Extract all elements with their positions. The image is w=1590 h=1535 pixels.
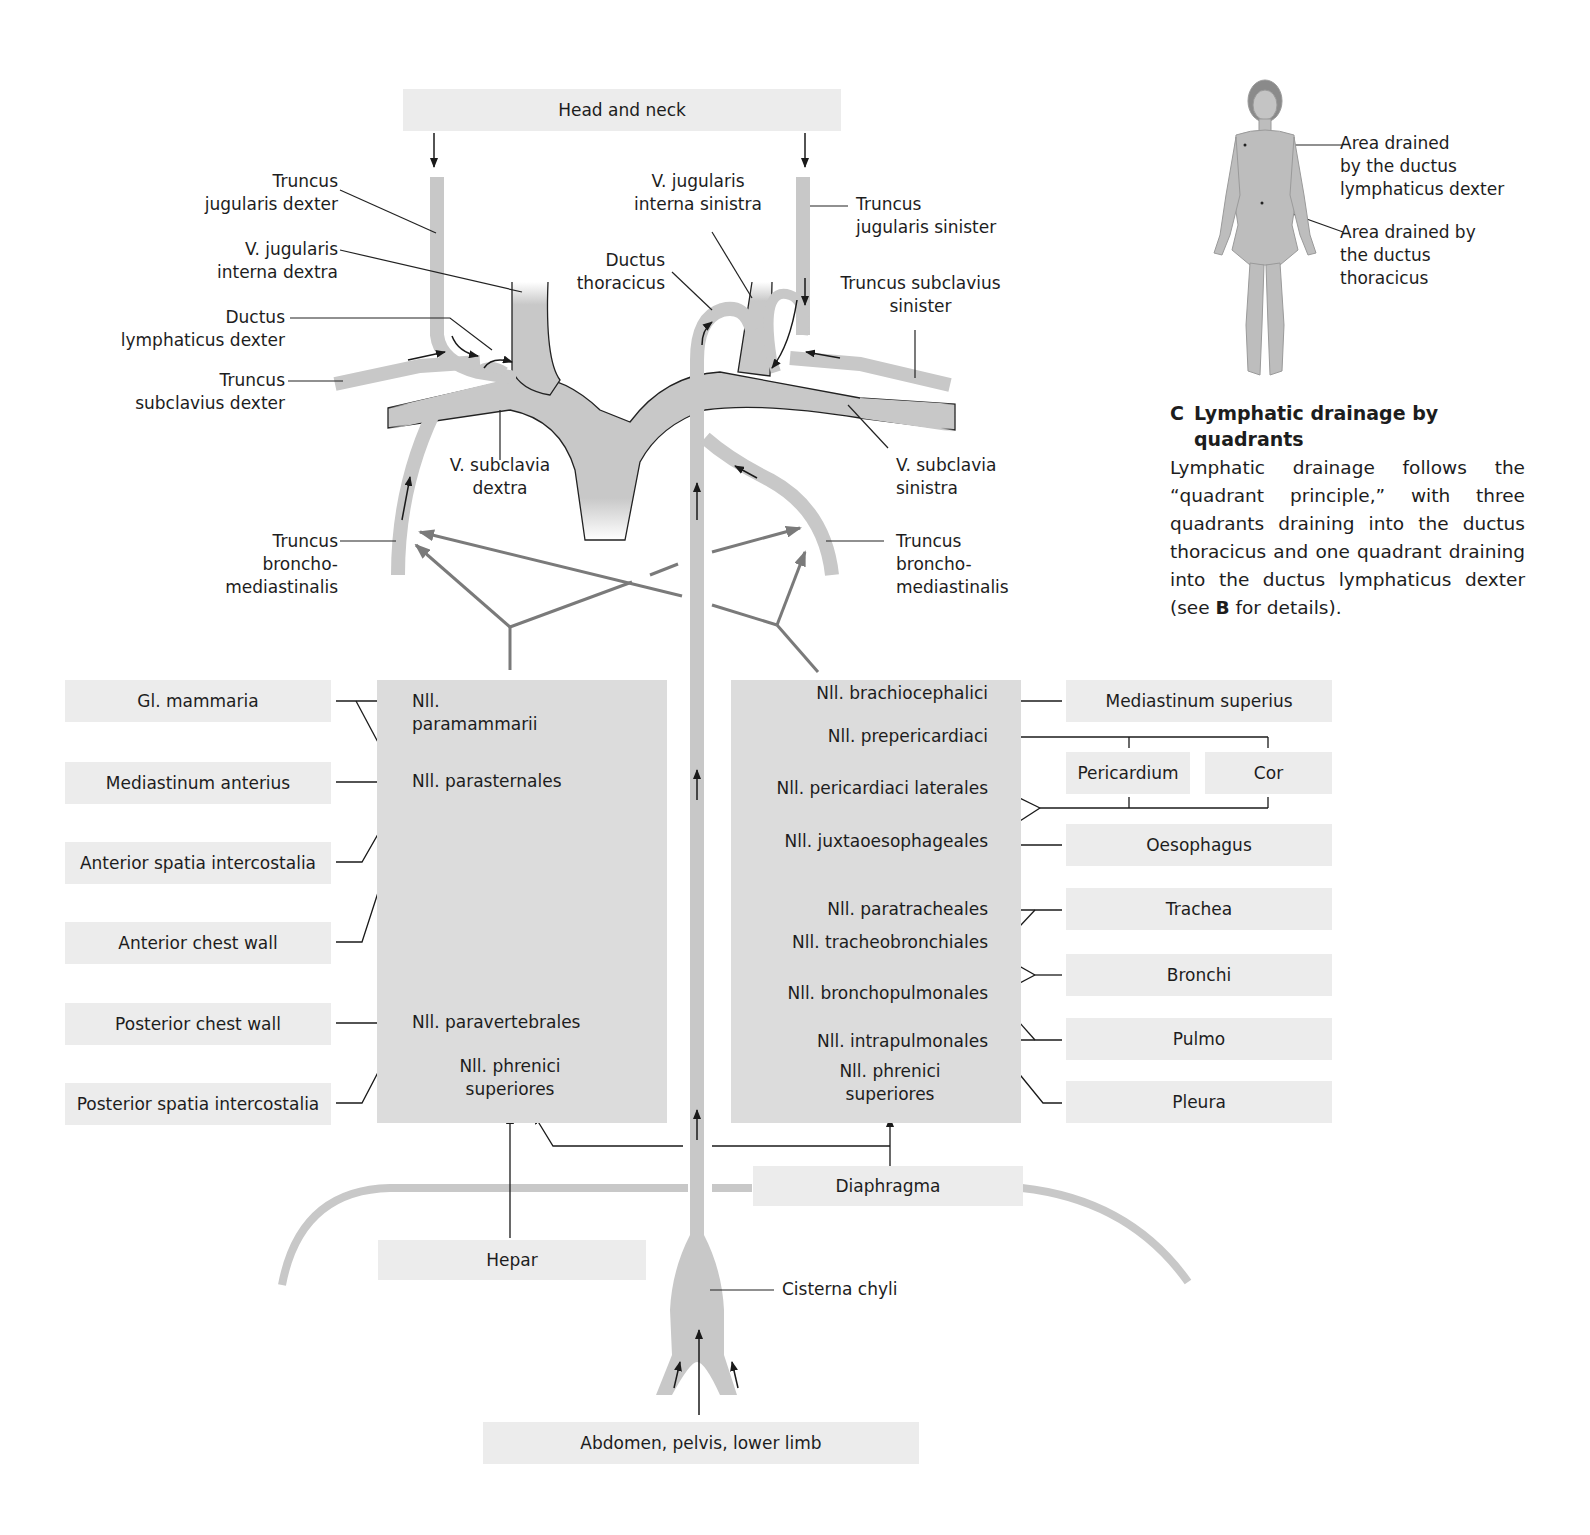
label-line: mediastinalis [896,576,1009,599]
source-mediastinum-anterius: Mediastinum anterius [65,762,331,804]
label-truncus-subclavius-sinister: Truncus subclavius sinister [838,272,1003,318]
label-line: Truncus [225,530,338,553]
node-phrenici-superiores-right: Nll. phrenici superiores [820,1060,960,1106]
label-v-subclavia-dextra: V. subclavia dextra [440,454,560,500]
label-line: mediastinalis [225,576,338,599]
label-line: broncho- [225,553,338,576]
label-line: jugularis dexter [205,193,338,216]
label-line: V. subclavia [896,454,996,477]
source-diaphragma: Diaphragma [753,1166,1023,1206]
cisterna-chyli-shape [656,1235,737,1395]
node-prepericardiaci: Nll. prepericardiaci [828,725,988,748]
label-line: interna sinistra [628,193,768,216]
label-line: interna dextra [217,261,338,284]
label-line: Area drained [1340,132,1504,155]
label-line: Truncus [205,170,338,193]
label-line: subclavius dexter [135,392,285,415]
label-line: Truncus [135,369,285,392]
node-juxtaoesophageales: Nll. juxtaoesophageales [785,830,988,853]
label-line: Truncus [856,193,996,216]
label-line: V. jugularis [628,170,768,193]
source-cor: Cor [1205,752,1332,794]
node-bronchopulmonales: Nll. bronchopulmonales [787,982,988,1005]
node-label-line: Nll. [412,690,538,713]
label-line: lymphaticus dexter [121,329,285,352]
node-paramammarii: Nll. paramammarii [412,690,538,736]
node-tracheobronchiales: Nll. tracheobronchiales [792,931,988,954]
label-truncus-jugularis-dexter: Truncus jugularis dexter [205,170,338,216]
source-label: Pleura [1172,1092,1226,1112]
source-anterior-spatia-intercostalia: Anterior spatia intercostalia [65,842,331,884]
node-label-line: Nll. phrenici [820,1060,960,1083]
source-head-neck: Head and neck [403,89,841,131]
node-intrapulmonales: Nll. intrapulmonales [817,1030,988,1053]
source-pleura: Pleura [1066,1081,1332,1123]
label-truncus-jugularis-sinister: Truncus jugularis sinister [856,193,996,239]
label-cisterna-chyli: Cisterna chyli [782,1278,898,1301]
label-ductus-thoracicus: Ductus thoracicus [577,249,665,295]
caption-body-bold: B [1216,597,1230,618]
bronchomediastinal-arrows [416,528,818,672]
caption-body-text-end: for details). [1230,597,1342,618]
label-line: thoracicus [1340,267,1476,290]
female-body-figure-icon [1200,75,1330,385]
source-bronchi: Bronchi [1066,954,1332,996]
label-line: Truncus subclavius [838,272,1003,295]
source-pericardium: Pericardium [1066,752,1190,794]
label-line: V. jugularis [217,238,338,261]
label-v-jugularis-interna-dextra: V. jugularis interna dextra [217,238,338,284]
label-line: sinistra [896,477,996,500]
label-line: jugularis sinister [856,216,996,239]
source-anterior-chest-wall: Anterior chest wall [65,922,331,964]
label-line: lymphaticus dexter [1340,178,1504,201]
source-label: Oesophagus [1146,835,1252,855]
source-label: Abdomen, pelvis, lower limb [580,1433,821,1453]
label-truncus-bronchomediastinalis-dexter: Truncus broncho- mediastinalis [225,530,338,599]
node-label-line: superiores [820,1083,960,1106]
caption-title-line2: quadrants [1170,426,1525,452]
source-label: Posterior chest wall [115,1014,281,1034]
source-label: Posterior spatia intercostalia [77,1094,320,1114]
source-posterior-spatia-intercostalia: Posterior spatia intercostalia [65,1083,331,1125]
source-posterior-chest-wall: Posterior chest wall [65,1003,331,1045]
source-label: Gl. mammaria [137,691,258,711]
source-label: Pulmo [1173,1029,1225,1049]
label-line: by the ductus [1340,155,1504,178]
source-label: Pericardium [1077,763,1178,783]
source-trachea: Trachea [1066,888,1332,930]
caption-title: CLymphatic drainage by quadrants [1170,400,1525,452]
source-label: Bronchi [1167,965,1231,985]
node-label-line: Nll. phrenici [440,1055,580,1078]
node-label-line: superiores [440,1078,580,1101]
source-label: Anterior spatia intercostalia [80,853,316,873]
node-pericardiaci-laterales: Nll. pericardiaci laterales [776,777,988,800]
node-parasternales: Nll. parasternales [412,770,562,793]
label-truncus-subclavius-dexter: Truncus subclavius dexter [135,369,285,415]
source-label: Trachea [1166,899,1232,919]
caption-title-line1: Lymphatic drainage by [1194,402,1438,424]
source-label: Mediastinum superius [1105,691,1292,711]
caption-body: Lymphatic drainage follows the “quadrant… [1170,454,1525,622]
node-paratracheales: Nll. paratracheales [827,898,988,921]
label-line: thoracicus [577,272,665,295]
node-brachiocephalici: Nll. brachiocephalici [816,682,988,705]
label-truncus-bronchomediastinalis-sinister: Truncus broncho- mediastinalis [896,530,1009,599]
label-v-jugularis-interna-sinistra: V. jugularis interna sinistra [628,170,768,216]
node-phrenici-superiores-left: Nll. phrenici superiores [440,1055,580,1101]
node-label-line: paramammarii [412,713,538,736]
label-line: Ductus [577,249,665,272]
label-line: V. subclavia [440,454,560,477]
label-line: Truncus [896,530,1009,553]
source-pulmo: Pulmo [1066,1018,1332,1060]
label-line: broncho- [896,553,1009,576]
source-label: Anterior chest wall [118,933,277,953]
caption-body-text: Lymphatic drainage follows the “quadrant… [1170,457,1525,618]
source-label: Hepar [486,1250,537,1270]
source-label: Cor [1254,763,1283,783]
label-line: the ductus [1340,244,1476,267]
node-paravertebrales: Nll. paravertebrales [412,1011,580,1034]
label-line: dextra [440,477,560,500]
source-label: Mediastinum anterius [106,773,290,793]
source-oesophagus: Oesophagus [1066,824,1332,866]
label-ductus-lymphaticus-dexter: Ductus lymphaticus dexter [121,306,285,352]
